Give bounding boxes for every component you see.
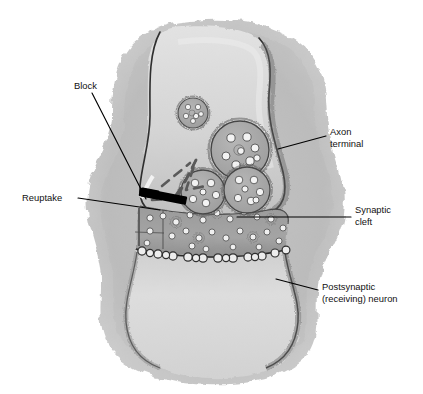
vesicle: [176, 96, 210, 130]
vesicle: [179, 168, 227, 216]
vesicle: [222, 165, 272, 215]
synapse-diagram: Block Reuptake Axon terminal Synaptic cl…: [0, 0, 423, 394]
label-block: Block: [74, 80, 97, 91]
label-synaptic-cleft: Synaptic cleft: [355, 204, 394, 227]
figure-canvas: Block Reuptake Axon terminal Synaptic cl…: [0, 0, 423, 394]
label-axon-terminal: Axon terminal: [330, 126, 363, 149]
postsynaptic-neuron-shape: [126, 250, 301, 378]
label-postsynaptic-neuron: Postsynaptic (receiving) neuron: [322, 281, 398, 304]
label-reuptake: Reuptake: [22, 192, 62, 203]
